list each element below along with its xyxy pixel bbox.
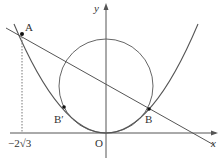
label-neg-2-sqrt3: −2√3 (8, 137, 32, 149)
math-diagram: A B B′ O x y −2√3 (0, 0, 221, 158)
label-y: y (93, 2, 99, 14)
label-a: A (25, 21, 33, 33)
point-b-prime (62, 105, 66, 109)
label-x: x (210, 137, 216, 149)
point-b (147, 107, 151, 111)
x-axis (10, 131, 218, 136)
label-b-prime: B′ (54, 113, 64, 125)
y-axis (104, 3, 109, 158)
line-ab (6, 28, 214, 145)
point-a (20, 32, 24, 36)
label-origin: O (95, 137, 103, 149)
label-b: B (145, 113, 152, 125)
